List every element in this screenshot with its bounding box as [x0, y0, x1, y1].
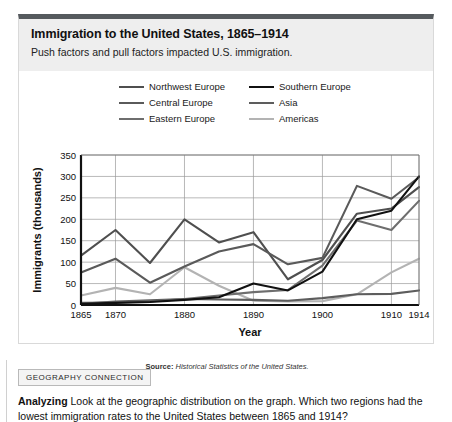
x-axis-tick-label: 1870 [105, 309, 126, 320]
legend-item: Eastern Europe [119, 113, 249, 125]
analyzing-text: Look at the geographic distribution on t… [18, 395, 423, 422]
legend-item: Central Europe [119, 97, 249, 109]
geography-connection-tag: GEOGRAPHY CONNECTION [18, 369, 151, 386]
y-axis-tick-label: 150 [60, 235, 76, 246]
page-root: Immigration to the United States, 1865–1… [0, 0, 452, 422]
y-axis-tick-label: 200 [60, 214, 76, 225]
line-chart-svg: 0501001502002503003501865187018801890190… [19, 147, 435, 347]
legend-swatch-icon [119, 102, 144, 104]
chart-card: Immigration to the United States, 1865–1… [18, 14, 434, 344]
analyzing-question: Analyzing Look at the geographic distrib… [18, 394, 434, 422]
legend-label: Asia [279, 97, 297, 109]
legend-label: Americas [279, 113, 319, 125]
left-margin-rule [6, 360, 7, 422]
legend-swatch-icon [249, 102, 274, 104]
x-axis-title: Year [238, 326, 262, 338]
legend-item: Asia [249, 97, 369, 109]
legend-item: Americas [249, 113, 369, 125]
x-axis-tick-label: 1900 [312, 309, 333, 320]
legend-label: Eastern Europe [149, 113, 215, 125]
legend-label: Central Europe [149, 97, 213, 109]
x-axis-tick-label: 1914 [408, 309, 429, 320]
chart-legend: Northwest EuropeSouthern EuropeCentral E… [119, 79, 369, 127]
legend-label: Southern Europe [279, 81, 351, 93]
page-title: Immigration to the United States, 1865–1… [31, 27, 421, 42]
legend-swatch-icon [119, 118, 144, 120]
y-axis-tick-label: 50 [65, 278, 76, 289]
geography-connection-section: GEOGRAPHY CONNECTION Analyzing Look at t… [18, 366, 434, 422]
chart-plot-area: 0501001502002503003501865187018801890190… [19, 147, 435, 347]
y-axis-tick-label: 300 [60, 171, 76, 182]
x-axis-tick-label: 1865 [70, 309, 91, 320]
analyzing-label: Analyzing [18, 395, 68, 407]
chart-subtitle: Push factors and pull factors impacted U… [31, 46, 421, 59]
y-axis-tick-label: 350 [60, 150, 76, 161]
y-axis-title: Immigrants (thousands) [31, 167, 43, 293]
x-axis-tick-label: 1890 [243, 309, 264, 320]
y-axis-tick-label: 100 [60, 257, 76, 268]
x-axis-tick-label: 1880 [174, 309, 195, 320]
legend-swatch-icon [249, 118, 274, 120]
chart-header: Immigration to the United States, 1865–1… [19, 19, 433, 71]
legend-item: Northwest Europe [119, 81, 249, 93]
y-axis-tick-label: 250 [60, 192, 76, 203]
x-axis-tick-label: 1910 [381, 309, 402, 320]
legend-item: Southern Europe [249, 81, 369, 93]
legend-label: Northwest Europe [149, 81, 225, 93]
legend-swatch-icon [119, 86, 144, 88]
plot-background [81, 155, 419, 305]
legend-swatch-icon [249, 86, 274, 88]
